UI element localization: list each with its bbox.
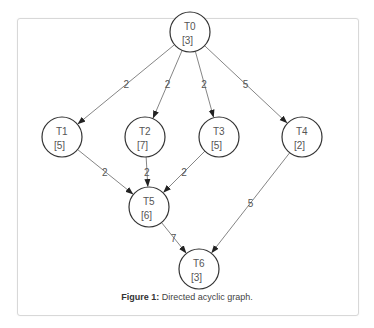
edge-weight-label: 5 [243, 79, 249, 90]
figure-caption: Figure 1: Directed acyclic graph. [0, 292, 374, 302]
caption-text: Directed acyclic graph. [159, 292, 253, 302]
node-circle [129, 187, 169, 227]
edge-weight-label: 2 [181, 167, 187, 178]
node-circle [179, 249, 219, 289]
node-label: T6 [193, 258, 205, 269]
node-label: T1 [56, 126, 68, 137]
node-circle [282, 117, 322, 157]
edge-weight-label: 2 [165, 79, 171, 90]
node-T2: T2[7] [125, 117, 165, 157]
edges-group: 222522257 [78, 45, 290, 253]
node-label: T2 [139, 126, 151, 137]
node-T0: T0[3] [170, 12, 210, 52]
node-circle [199, 117, 239, 157]
edge-weight-label: 2 [144, 167, 150, 178]
edge-weight-label: 2 [123, 79, 129, 90]
node-weight: [7] [137, 140, 148, 151]
node-T3: T3[5] [199, 117, 239, 157]
node-circle [170, 12, 210, 52]
node-weight: [2] [294, 140, 305, 151]
node-weight: [3] [182, 35, 193, 46]
node-label: T5 [143, 196, 155, 207]
node-weight: [6] [141, 210, 152, 221]
node-T6: T6[3] [179, 249, 219, 289]
node-weight: [5] [211, 140, 222, 151]
edge-weight-label: 7 [171, 233, 177, 244]
edge-weight-label: 5 [248, 198, 254, 209]
edge-weight-label: 2 [102, 167, 108, 178]
node-circle [42, 117, 82, 157]
node-label: T3 [213, 126, 225, 137]
caption-label: Figure 1: [121, 292, 159, 302]
node-T1: T1[5] [42, 117, 82, 157]
node-label: T0 [184, 21, 196, 32]
node-circle [125, 117, 165, 157]
node-weight: [5] [54, 140, 65, 151]
node-label: T4 [296, 126, 308, 137]
edge-weight-label: 2 [201, 79, 207, 90]
node-T4: T4[2] [282, 117, 322, 157]
node-weight: [3] [191, 272, 202, 283]
dag-diagram: 222522257 T0[3]T1[5]T2[7]T3[5]T4[2]T5[6]… [0, 0, 374, 328]
node-T5: T5[6] [129, 187, 169, 227]
